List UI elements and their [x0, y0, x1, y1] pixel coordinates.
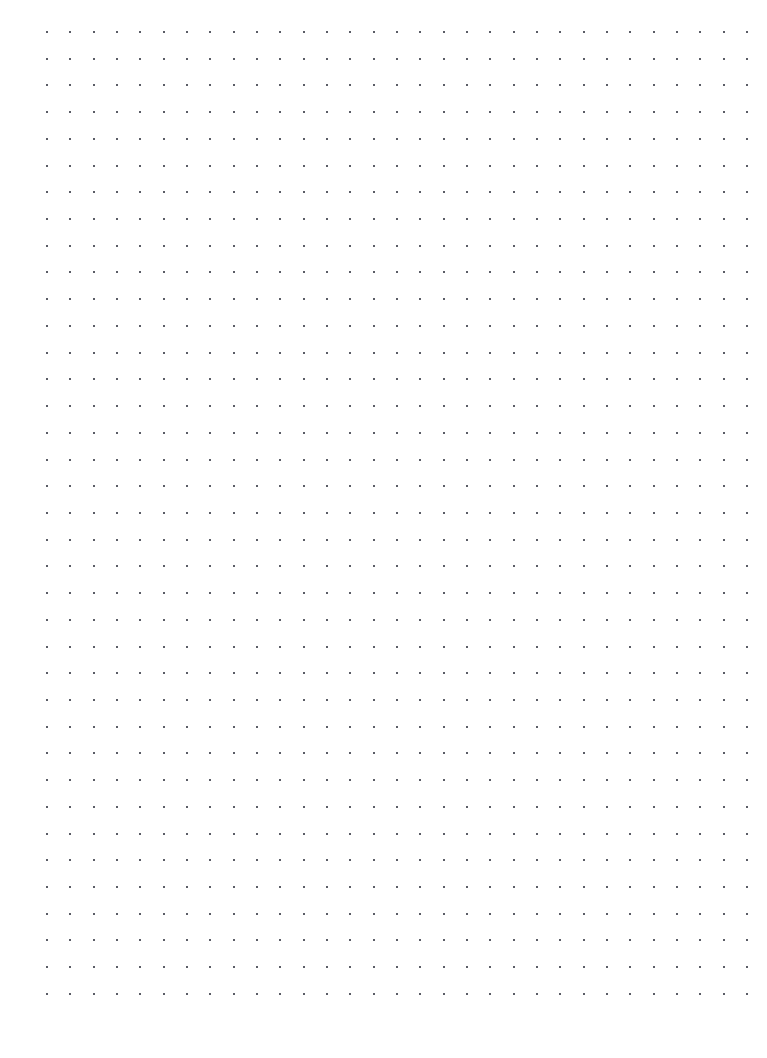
- grid-dot: [513, 966, 515, 968]
- grid-dot: [209, 779, 211, 781]
- grid-dot: [559, 779, 561, 781]
- grid-dot: [186, 833, 188, 835]
- grid-dot: [349, 378, 351, 380]
- grid-dot: [139, 646, 141, 648]
- grid-dot: [326, 726, 328, 728]
- grid-dot: [116, 859, 118, 861]
- grid-dot: [489, 592, 491, 594]
- grid-dot: [653, 779, 655, 781]
- grid-dot: [139, 31, 141, 33]
- grid-dot: [116, 913, 118, 915]
- grid-dot: [256, 165, 258, 167]
- grid-dot: [513, 752, 515, 754]
- grid-dot: [629, 405, 631, 407]
- grid-dot: [233, 84, 235, 86]
- grid-dot: [699, 539, 701, 541]
- grid-dot: [489, 699, 491, 701]
- grid-dot: [396, 485, 398, 487]
- grid-dot: [233, 646, 235, 648]
- grid-dot: [629, 378, 631, 380]
- grid-dot: [163, 993, 165, 995]
- grid-dot: [629, 459, 631, 461]
- grid-dot: [373, 298, 375, 300]
- grid-dot: [396, 779, 398, 781]
- grid-dot: [466, 966, 468, 968]
- grid-dot: [326, 806, 328, 808]
- grid-dot: [653, 565, 655, 567]
- grid-dot: [373, 352, 375, 354]
- grid-dot: [653, 378, 655, 380]
- grid-dot: [69, 245, 71, 247]
- grid-dot: [303, 592, 305, 594]
- grid-dot: [583, 646, 585, 648]
- grid-dot: [93, 806, 95, 808]
- grid-dot: [676, 405, 678, 407]
- grid-dot: [513, 726, 515, 728]
- grid-dot: [746, 405, 748, 407]
- grid-dot: [69, 325, 71, 327]
- grid-dot: [419, 886, 421, 888]
- grid-dot: [93, 111, 95, 113]
- grid-dot: [349, 993, 351, 995]
- grid-dot: [186, 726, 188, 728]
- grid-dot: [139, 191, 141, 193]
- grid-dot: [116, 539, 118, 541]
- grid-dot: [723, 111, 725, 113]
- grid-dot: [46, 271, 48, 273]
- grid-dot: [186, 271, 188, 273]
- grid-dot: [513, 512, 515, 514]
- grid-dot: [489, 993, 491, 995]
- grid-dot: [279, 58, 281, 60]
- grid-dot: [209, 806, 211, 808]
- grid-dot: [606, 325, 608, 327]
- grid-dot: [629, 565, 631, 567]
- grid-dot: [583, 459, 585, 461]
- grid-dot: [606, 459, 608, 461]
- grid-dot: [559, 993, 561, 995]
- grid-dot: [46, 886, 48, 888]
- grid-dot: [676, 485, 678, 487]
- grid-dot: [46, 191, 48, 193]
- grid-dot: [373, 806, 375, 808]
- grid-dot: [326, 84, 328, 86]
- grid-dot: [443, 512, 445, 514]
- grid-dot: [653, 138, 655, 140]
- grid-dot: [699, 646, 701, 648]
- grid-dot: [419, 84, 421, 86]
- grid-dot: [559, 592, 561, 594]
- grid-dot: [583, 592, 585, 594]
- grid-dot: [139, 138, 141, 140]
- grid-dot: [116, 58, 118, 60]
- grid-dot: [69, 111, 71, 113]
- grid-dot: [699, 111, 701, 113]
- grid-dot: [723, 485, 725, 487]
- grid-dot: [209, 218, 211, 220]
- grid-dot: [279, 779, 281, 781]
- grid-dot: [163, 84, 165, 86]
- grid-dot: [326, 752, 328, 754]
- grid-dot: [629, 165, 631, 167]
- grid-dot: [116, 646, 118, 648]
- grid-dot: [466, 806, 468, 808]
- grid-dot: [559, 966, 561, 968]
- grid-dot: [279, 325, 281, 327]
- grid-dot: [559, 913, 561, 915]
- grid-dot: [186, 245, 188, 247]
- grid-dot: [209, 939, 211, 941]
- grid-dot: [256, 432, 258, 434]
- grid-dot: [93, 459, 95, 461]
- grid-dot: [396, 138, 398, 140]
- grid-dot: [326, 539, 328, 541]
- grid-dot: [349, 31, 351, 33]
- grid-dot: [396, 512, 398, 514]
- grid-dot: [116, 726, 118, 728]
- grid-dot: [373, 833, 375, 835]
- grid-dot: [209, 459, 211, 461]
- grid-dot: [746, 939, 748, 941]
- grid-dot: [466, 485, 468, 487]
- grid-dot: [443, 966, 445, 968]
- grid-dot: [69, 939, 71, 941]
- grid-dot: [606, 378, 608, 380]
- grid-dot: [163, 111, 165, 113]
- grid-dot: [653, 699, 655, 701]
